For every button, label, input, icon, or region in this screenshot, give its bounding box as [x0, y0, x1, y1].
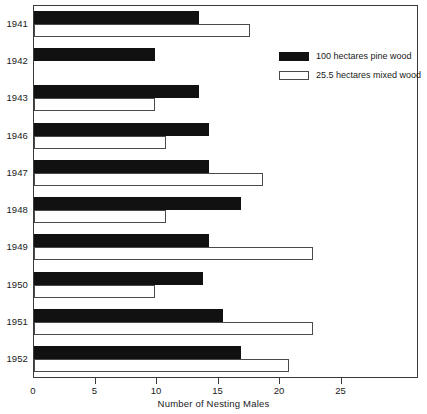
x-tick-25 — [341, 378, 342, 384]
bar-mixed-wood — [34, 136, 166, 149]
bar-group — [34, 81, 417, 118]
bar-pine-wood — [34, 48, 155, 61]
bar-mixed-wood — [34, 24, 250, 37]
x-tick-10 — [156, 378, 157, 384]
legend-item-pine-wood: 100 hectares pine wood — [279, 48, 421, 64]
legend-swatch-dark-icon — [279, 52, 309, 61]
bar-group — [34, 193, 417, 230]
x-tick-20 — [279, 378, 280, 384]
bar-pine-wood — [34, 197, 241, 210]
bar-pine-wood — [34, 309, 223, 322]
year-label-1947: 1947 — [0, 168, 28, 178]
bar-pine-wood — [34, 11, 199, 24]
bar-group — [34, 6, 417, 43]
x-tick-label-20: 20 — [264, 385, 294, 396]
bar-chart: 1941194219431946194719481949195019511952… — [0, 0, 427, 414]
bar-mixed-wood — [34, 210, 166, 223]
x-tick-5 — [95, 378, 96, 384]
legend-swatch-light-icon — [279, 71, 309, 80]
year-label-1946: 1946 — [0, 131, 28, 141]
year-label-1942: 1942 — [0, 56, 28, 66]
bar-mixed-wood — [34, 285, 155, 298]
year-label-1949: 1949 — [0, 242, 28, 252]
x-tick-label-10: 10 — [141, 385, 171, 396]
bar-group — [34, 230, 417, 267]
bar-mixed-wood — [34, 247, 313, 260]
year-label-1950: 1950 — [0, 280, 28, 290]
x-tick-label-0: 0 — [18, 385, 48, 396]
bar-group — [34, 304, 417, 341]
bar-group — [34, 118, 417, 155]
bar-mixed-wood — [34, 98, 155, 111]
year-label-1941: 1941 — [0, 19, 28, 29]
bar-pine-wood — [34, 160, 209, 173]
bar-pine-wood — [34, 123, 209, 136]
bar-pine-wood — [34, 234, 209, 247]
bar-mixed-wood — [34, 173, 263, 186]
bar-group — [34, 155, 417, 192]
legend-label-pine-wood: 100 hectares pine wood — [316, 51, 412, 61]
bar-pine-wood — [34, 346, 241, 359]
bar-pine-wood — [34, 85, 199, 98]
legend-label-mixed-wood: 25.5 hectares mixed wood — [316, 70, 421, 80]
year-label-1943: 1943 — [0, 93, 28, 103]
x-tick-label-15: 15 — [203, 385, 233, 396]
legend: 100 hectares pine wood 25.5 hectares mix… — [279, 48, 421, 86]
x-axis-title: Number of Nesting Males — [0, 398, 427, 409]
bar-pine-wood — [34, 272, 203, 285]
x-tick-label-25: 25 — [326, 385, 356, 396]
legend-item-mixed-wood: 25.5 hectares mixed wood — [279, 67, 421, 83]
x-tick-label-5: 5 — [80, 385, 110, 396]
bar-group — [34, 342, 417, 379]
year-label-1952: 1952 — [0, 354, 28, 364]
bar-group — [34, 267, 417, 304]
year-label-1951: 1951 — [0, 317, 28, 327]
bar-mixed-wood — [34, 322, 313, 335]
x-tick-15 — [218, 378, 219, 384]
year-label-1948: 1948 — [0, 205, 28, 215]
bar-mixed-wood — [34, 359, 289, 372]
